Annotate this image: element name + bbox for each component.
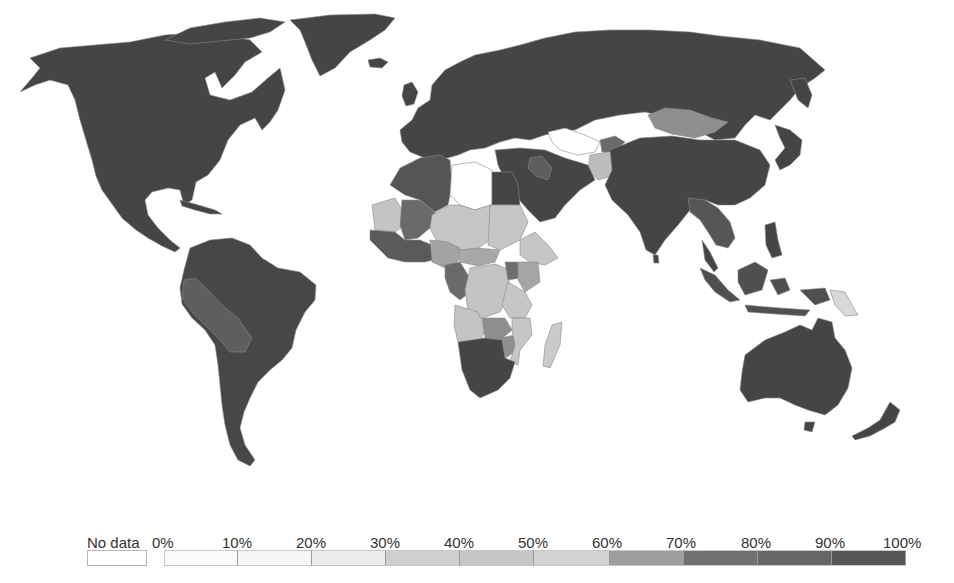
legend-tick-100: 100% xyxy=(883,534,921,551)
legend-tick-60: 60% xyxy=(592,534,622,551)
region-ethiopia-somalia[interactable] xyxy=(520,232,558,265)
legend-bin-20-30 xyxy=(312,550,386,566)
legend-bin-40-50 xyxy=(460,550,534,566)
legend: No data 0% 10% 20% 30% 40% 50% 60% 70% 8… xyxy=(0,528,954,583)
legend-tick-50: 50% xyxy=(518,534,548,551)
region-madagascar[interactable] xyxy=(543,322,562,368)
legend-tick-90: 90% xyxy=(815,534,845,551)
region-central-asia-no-data[interactable] xyxy=(548,128,600,155)
legend-bin-70-80 xyxy=(684,550,758,566)
legend-bin-90-100 xyxy=(832,550,906,566)
region-libya-no-data[interactable] xyxy=(450,162,492,210)
legend-bin-80-90 xyxy=(758,550,832,566)
legend-tick-30: 30% xyxy=(370,534,400,551)
region-china-india[interactable] xyxy=(605,136,770,255)
region-tasmania[interactable] xyxy=(804,422,815,432)
legend-bin-50-60 xyxy=(534,550,610,566)
region-southeast-asia[interactable] xyxy=(688,198,735,248)
region-australia[interactable] xyxy=(740,318,852,415)
region-korea-japan[interactable] xyxy=(775,125,802,170)
region-new-zealand[interactable] xyxy=(852,402,900,440)
region-central-african-rep[interactable] xyxy=(458,248,500,266)
region-north-america[interactable] xyxy=(20,32,285,252)
legend-tick-40: 40% xyxy=(444,534,474,551)
region-indonesia[interactable] xyxy=(700,262,830,316)
legend-no-data-label: No data xyxy=(87,534,140,551)
legend-tick-20: 20% xyxy=(296,534,326,551)
region-kenya[interactable] xyxy=(518,262,540,292)
legend-bin-0-10 xyxy=(164,550,238,566)
legend-tick-0: 0% xyxy=(152,534,174,551)
legend-no-data-swatch xyxy=(87,550,147,566)
region-uk[interactable] xyxy=(402,82,418,106)
region-iceland[interactable] xyxy=(368,58,388,68)
region-caribbean[interactable] xyxy=(180,200,222,214)
region-arctic-islands[interactable] xyxy=(165,18,285,44)
legend-tick-10: 10% xyxy=(222,534,252,551)
legend-tick-70: 70% xyxy=(666,534,696,551)
region-papua-new-guinea[interactable] xyxy=(830,290,858,316)
region-sri-lanka[interactable] xyxy=(653,255,659,263)
legend-tick-80: 80% xyxy=(741,534,771,551)
region-mauritania[interactable] xyxy=(372,198,405,232)
region-south-america[interactable] xyxy=(180,238,316,466)
legend-bin-30-40 xyxy=(386,550,460,566)
region-philippines[interactable] xyxy=(765,222,782,258)
world-choropleth-map xyxy=(0,0,954,520)
legend-bin-10-20 xyxy=(238,550,312,566)
legend-bin-60-70 xyxy=(610,550,684,566)
